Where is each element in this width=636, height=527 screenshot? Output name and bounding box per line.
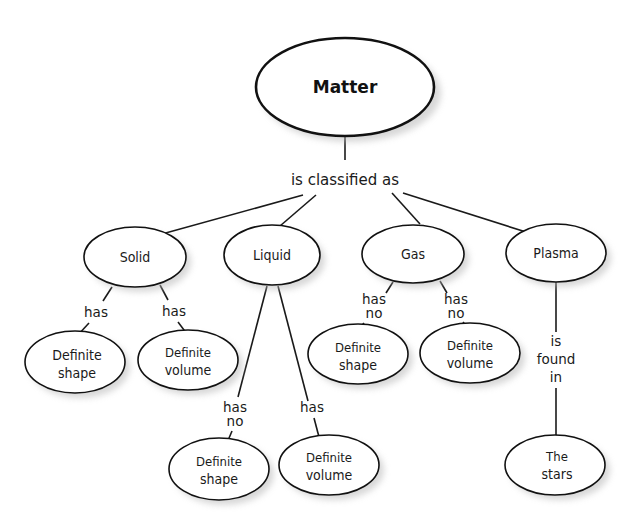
node-liquid-volume-line2: volume bbox=[306, 467, 353, 483]
node-plasma-label: Plasma bbox=[533, 245, 578, 261]
node-solid-volume-line1: Definite bbox=[165, 345, 211, 360]
node-gas: Gas bbox=[362, 225, 469, 288]
node-stars-line1: The bbox=[545, 449, 568, 464]
node-liquid-shape-line2: shape bbox=[200, 471, 238, 487]
link-plasma-is-found-in: is found in bbox=[537, 333, 576, 385]
edge-liquid-has bbox=[278, 286, 308, 401]
node-gas-volume-line2: volume bbox=[447, 355, 494, 371]
link-liquid-hasno-line2: no bbox=[227, 413, 244, 429]
link-plasma-line3: in bbox=[550, 369, 562, 385]
node-gas-label: Gas bbox=[401, 246, 425, 262]
node-gas-volume-line1: Definite bbox=[447, 338, 493, 353]
link-gas-hasno-1-line2: no bbox=[366, 305, 383, 321]
link-solid-has-shape: has bbox=[84, 304, 108, 320]
edge-liquid-hasno bbox=[238, 286, 267, 397]
link-liquid-has-volume: has bbox=[300, 399, 324, 415]
node-liquid-definite-shape: Definite shape bbox=[169, 438, 274, 505]
node-solid-shape-line2: shape bbox=[58, 365, 96, 381]
node-the-stars: The stars bbox=[505, 435, 610, 500]
link-gas-has-no-volume: has no bbox=[444, 291, 468, 321]
node-liquid-label: Liquid bbox=[253, 247, 291, 263]
link-liquid-has-no-shape: has no bbox=[223, 399, 247, 429]
link-plasma-line1: is bbox=[551, 333, 562, 349]
node-gas-definite-shape: Definite shape bbox=[308, 324, 413, 389]
link-plasma-line2: found bbox=[537, 351, 576, 367]
node-solid: Solid bbox=[84, 227, 191, 292]
node-solid-definite-volume: Definite volume bbox=[138, 330, 243, 395]
node-stars-line2: stars bbox=[542, 466, 573, 482]
node-liquid-volume-line1: Definite bbox=[306, 450, 352, 465]
node-plasma: Plasma bbox=[506, 224, 611, 287]
link-solid-has-volume: has bbox=[162, 303, 186, 319]
edge-solid-has-1 bbox=[103, 287, 112, 301]
node-matter: Matter bbox=[256, 38, 441, 142]
link-gas-has-no-shape: has no bbox=[362, 291, 386, 321]
node-solid-volume-line2: volume bbox=[165, 362, 212, 378]
matter-concept-map: Matter is classified as Solid Liquid Gas… bbox=[0, 0, 636, 527]
node-solid-definite-shape: Definite shape bbox=[25, 331, 130, 398]
node-liquid: Liquid bbox=[224, 225, 325, 290]
link-gas-hasno-2-line2: no bbox=[448, 305, 465, 321]
node-liquid-shape-line1: Definite bbox=[196, 454, 242, 469]
node-gas-shape-line1: Definite bbox=[335, 340, 381, 355]
node-matter-label: Matter bbox=[313, 77, 378, 97]
link-is-classified-as: is classified as bbox=[291, 171, 399, 189]
edge-liquid-has-b bbox=[314, 418, 319, 437]
node-gas-definite-volume: Definite volume bbox=[420, 323, 525, 388]
node-solid-shape-line1: Definite bbox=[52, 347, 102, 363]
node-gas-shape-line2: shape bbox=[339, 357, 377, 373]
node-liquid-definite-volume: Definite volume bbox=[279, 435, 384, 500]
node-solid-label: Solid bbox=[120, 249, 151, 265]
